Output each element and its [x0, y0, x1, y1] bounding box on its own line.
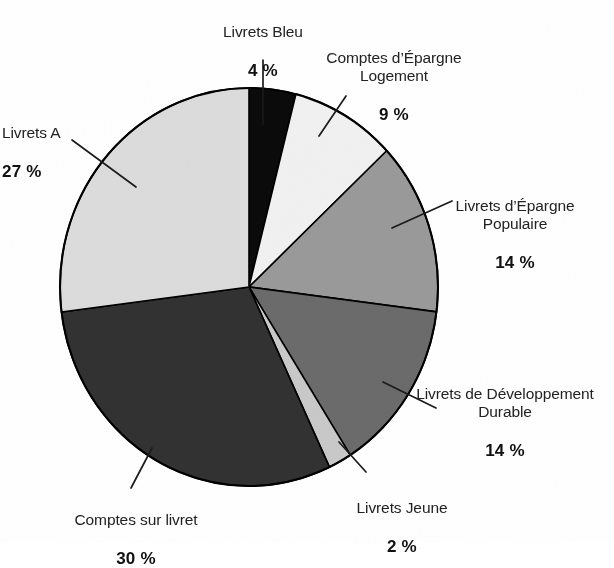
callout-livrets-developpement-durable-label: Livrets de Développement Durable	[396, 385, 614, 422]
callout-livrets-jeune-value: 2 %	[318, 537, 486, 557]
callout-livrets-epargne-populaire-value: 14 %	[422, 253, 608, 273]
callout-comptes-epargne-logement: Comptes d’Épargne Logement 9 %	[296, 30, 492, 144]
callout-livrets-developpement-durable-value: 14 %	[396, 441, 614, 461]
callout-livrets-a: Livrets A 27 %	[2, 105, 128, 201]
callout-livrets-jeune: Livrets Jeune 2 %	[318, 480, 486, 568]
callout-livrets-jeune-label: Livrets Jeune	[318, 499, 486, 517]
callout-comptes-epargne-logement-label: Comptes d’Épargne Logement	[296, 49, 492, 86]
callout-livrets-a-value: 27 %	[2, 162, 128, 182]
callout-livrets-epargne-populaire-label: Livrets d’Épargne Populaire	[422, 197, 608, 234]
callout-livrets-a-label: Livrets A	[2, 124, 128, 142]
callout-comptes-epargne-logement-value: 9 %	[296, 105, 492, 125]
callout-comptes-sur-livret-value: 30 %	[28, 549, 244, 568]
callout-livrets-epargne-populaire: Livrets d’Épargne Populaire 14 %	[422, 178, 608, 292]
callout-comptes-sur-livret: Comptes sur livret 30 %	[28, 492, 244, 568]
callout-livrets-developpement-durable: Livrets de Développement Durable 14 %	[396, 366, 614, 480]
leader-line-comptes-sur-livret	[131, 448, 152, 488]
callout-comptes-sur-livret-label: Comptes sur livret	[28, 511, 244, 529]
